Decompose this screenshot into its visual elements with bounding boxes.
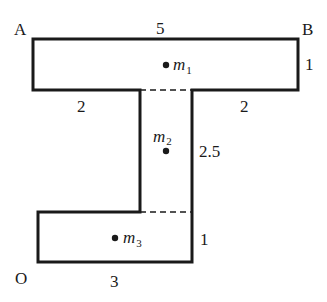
mass-label-m2: m2 <box>153 127 172 147</box>
diagram-canvas: A B O 5 1 2 2 2.5 1 3 m1 m2 m3 <box>0 0 327 302</box>
dim-top-height: 1 <box>305 55 314 74</box>
mass-label-m1: m1 <box>173 55 192 76</box>
dim-bottom-width: 3 <box>110 272 119 291</box>
dim-right-overhang: 2 <box>240 97 249 116</box>
corner-label-b: B <box>302 20 313 39</box>
mass-point-m3 <box>112 235 118 241</box>
dim-top-width: 5 <box>156 19 165 38</box>
mass-point-m2 <box>163 148 169 154</box>
origin-label-o: O <box>15 269 27 288</box>
dim-bottom-height: 1 <box>200 230 209 249</box>
mass-point-m1 <box>163 62 169 68</box>
corner-label-a: A <box>14 20 27 39</box>
mass-label-m3: m3 <box>123 228 142 249</box>
dim-stem-height: 2.5 <box>199 142 220 161</box>
dim-left-overhang: 2 <box>77 97 86 116</box>
